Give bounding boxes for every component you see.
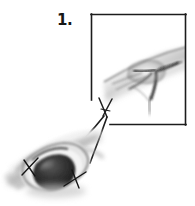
illustration-canvas <box>0 0 195 206</box>
wound-cast-shadow <box>26 184 86 198</box>
forceps-prong-upper-left <box>99 98 107 117</box>
wound-illustration-group <box>4 132 103 198</box>
figure-root: 1. <box>0 0 195 206</box>
inset-content-group <box>103 46 192 113</box>
step-number-label: 1. <box>57 13 72 28</box>
